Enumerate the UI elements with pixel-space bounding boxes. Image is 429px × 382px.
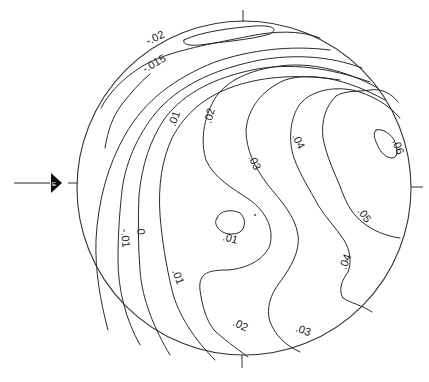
contour-label: .01 (170, 268, 187, 286)
contour-label: .01 (221, 230, 239, 246)
triangle-arrow-icon: E (14, 173, 62, 193)
contour-label: .04 (337, 252, 354, 270)
contour-label: -.01 (119, 228, 133, 248)
contour-label: .04 (290, 132, 307, 151)
contour-plot-canvas: E (0, 0, 429, 382)
stereonet-diagram: E (0, 0, 429, 382)
contour-label: 0 (135, 228, 147, 235)
contour-label: .02 (231, 316, 250, 333)
contour-lines (96, 26, 400, 360)
contour-labels: -.02 -.015 -.01 0 .01 .01 .01 .02 .02 .0… (119, 28, 407, 338)
contour-label: .01 (166, 109, 183, 127)
projection-circle (77, 21, 411, 355)
contour-label: .05 (355, 205, 374, 224)
contour-label: .03 (246, 153, 263, 172)
contour-label: .02 (201, 107, 217, 125)
contour-label: .03 (294, 322, 312, 339)
contour-label: -.02 (144, 28, 166, 47)
center-point-marker (254, 214, 256, 216)
svg-text:E: E (52, 181, 56, 187)
contour-label: -.015 (140, 52, 168, 75)
